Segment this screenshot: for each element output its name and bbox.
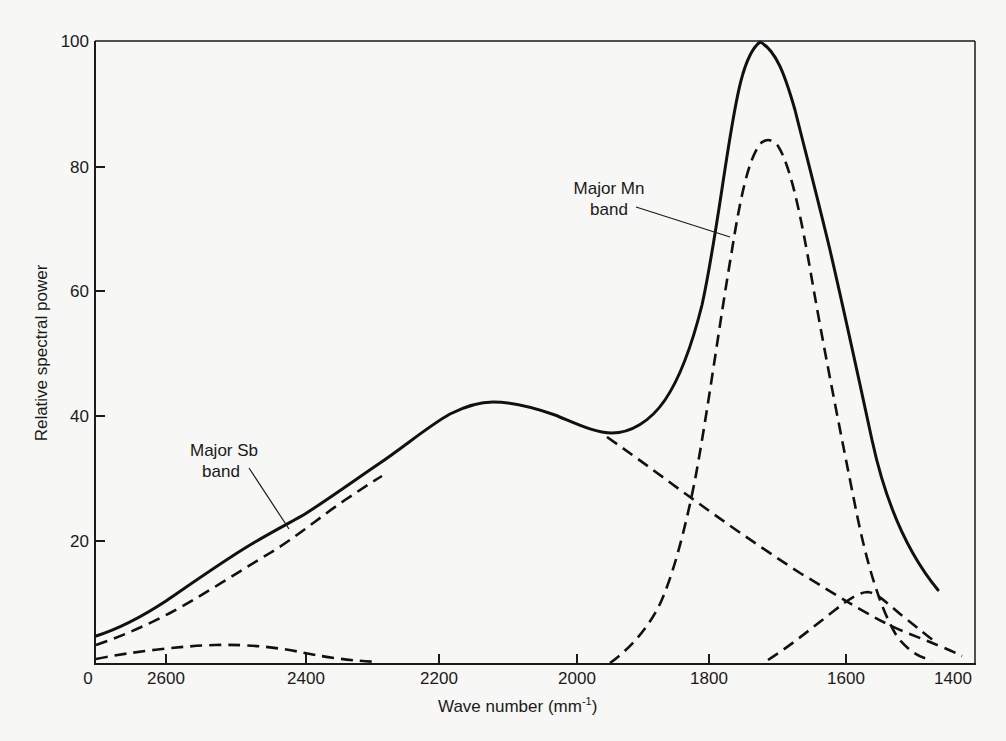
sb-band-annotation: Major Sb band [190, 441, 289, 529]
minor-right-band-curve [768, 592, 937, 660]
mn-annotation-line2: band [590, 200, 628, 219]
x-tick-2400: 2400 [287, 669, 325, 688]
y-tick-80: 80 [70, 158, 89, 177]
x-axis-title-close: ) [592, 697, 598, 716]
x-tick-2600: 2600 [147, 669, 185, 688]
y-tick-100: 100 [61, 32, 89, 51]
x-axis-ticks [166, 654, 846, 664]
sb-annotation-line2: band [202, 462, 240, 481]
spectral-power-chart: 100 80 60 40 20 0 2600 2400 2200 2000 18… [0, 0, 1006, 741]
x-axis-title-main: Wave number (mm [438, 697, 582, 716]
x-axis-title: Wave number (mm-1) [438, 695, 597, 716]
x-tick-1600: 1600 [827, 669, 865, 688]
x-tick-1400: 1400 [934, 669, 972, 688]
y-axis-title: Relative spectral power [32, 264, 51, 441]
sb-leader-line [249, 468, 289, 529]
x-tick-2000: 2000 [558, 669, 596, 688]
mn-band-annotation: Major Mn band [574, 179, 730, 237]
mn-annotation-line1: Major Mn [574, 179, 645, 198]
origin-label: 0 [83, 669, 92, 688]
minor-low-band-curve [96, 645, 378, 662]
x-tick-1800: 1800 [690, 669, 728, 688]
x-axis-tick-labels: 2600 2400 2200 2000 1800 1600 1400 [147, 669, 972, 688]
y-tick-60: 60 [70, 282, 89, 301]
total-spectrum-curve [96, 42, 938, 636]
y-axis-tick-labels: 100 80 60 40 20 0 [61, 32, 93, 688]
sb-band-curve [96, 476, 382, 645]
sb-annotation-line1: Major Sb [190, 441, 258, 460]
x-axis-title-superscript: -1 [582, 695, 592, 707]
y-tick-20: 20 [70, 532, 89, 551]
y-tick-40: 40 [70, 407, 89, 426]
y-axis-ticks [95, 167, 105, 541]
mn-band-curve [610, 140, 932, 663]
x-tick-2200: 2200 [420, 669, 458, 688]
